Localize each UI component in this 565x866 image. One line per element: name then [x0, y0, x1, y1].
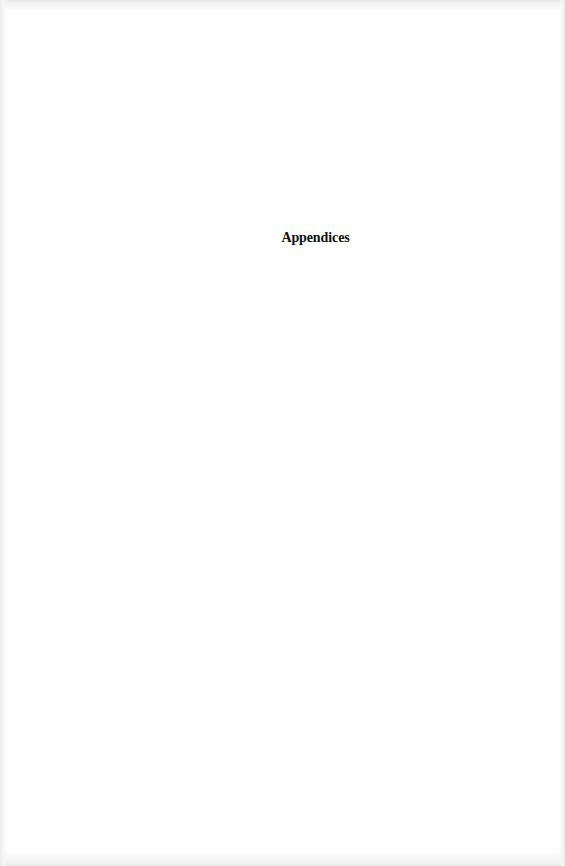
- document-page: Appendices: [0, 0, 565, 866]
- scan-edge-left: [0, 0, 7, 866]
- scan-edge-right: [559, 0, 565, 866]
- scan-edge-top: [0, 0, 565, 10]
- section-heading: Appendices: [0, 229, 565, 247]
- scan-edge-bottom: [0, 852, 565, 866]
